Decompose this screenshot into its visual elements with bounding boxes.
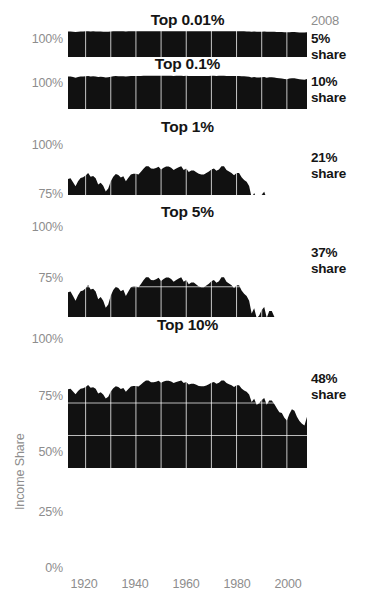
xtick-1960: 1960 — [166, 578, 206, 591]
ytick-p4-50: 50% — [8, 446, 63, 459]
share-value-top-5: 37% — [311, 245, 337, 260]
area-plot-top-5 — [68, 224, 307, 317]
share-value-top-01: 10% — [311, 74, 337, 89]
share-label-top-5: 37% share — [311, 245, 346, 277]
xtick-1980: 1980 — [217, 578, 257, 591]
area-plot-top-10 — [68, 338, 307, 468]
share-word-top-001: share — [311, 47, 346, 62]
plot-panel-top-01 — [68, 75, 307, 109]
xtick-2000: 2000 — [268, 578, 308, 591]
share-word-top-1: share — [311, 166, 346, 181]
share-label-top-1: 21% share — [311, 150, 346, 182]
ytick-p4-100: 100% — [8, 333, 63, 346]
plot-panel-top-10 — [68, 338, 307, 468]
share-value-top-001: 5% — [311, 31, 330, 46]
panel-title-top-01: Top 0.1% — [68, 56, 307, 72]
xtick-1940: 1940 — [115, 578, 155, 591]
end-year-label: 2008 — [311, 14, 339, 27]
share-word-top-5: share — [311, 261, 346, 276]
panel-title-top-001: Top 0.01% — [68, 12, 307, 28]
area-plot-top-01 — [68, 75, 307, 109]
ytick-p2-100: 100% — [8, 139, 63, 152]
plot-panel-top-001 — [68, 31, 307, 57]
share-label-top-01: 10% share — [311, 74, 346, 106]
share-label-top-001: 5% share — [311, 31, 346, 63]
ytick-p3-100: 100% — [8, 221, 63, 234]
share-label-top-10: 48% share — [311, 371, 346, 403]
y-axis-title: Income Share — [14, 433, 27, 510]
share-word-top-10: share — [311, 387, 346, 402]
panel-title-top-10: Top 10% — [68, 317, 307, 333]
ytick-p1-100: 100% — [8, 77, 63, 90]
share-value-top-1: 21% — [311, 150, 337, 165]
plot-panel-top-1 — [68, 138, 307, 195]
income-share-chart-figure: Income Share 2008 Top 0.01% 100% 5% shar… — [0, 0, 367, 609]
area-plot-top-001 — [68, 31, 307, 57]
ytick-p4-0: 0% — [8, 562, 63, 575]
ytick-p2-75: 75% — [8, 188, 63, 201]
panel-title-top-5: Top 5% — [68, 204, 307, 220]
xtick-1920: 1920 — [64, 578, 104, 591]
ytick-p4-75: 75% — [8, 390, 63, 403]
ytick-p3-75: 75% — [8, 272, 63, 285]
ytick-p4-25: 25% — [8, 506, 63, 519]
ytick-p0-100: 100% — [8, 33, 63, 46]
plot-panel-top-5 — [68, 224, 307, 317]
share-value-top-10: 48% — [311, 371, 337, 386]
panel-title-top-1: Top 1% — [68, 119, 307, 135]
area-plot-top-1 — [68, 138, 307, 195]
share-word-top-01: share — [311, 90, 346, 105]
